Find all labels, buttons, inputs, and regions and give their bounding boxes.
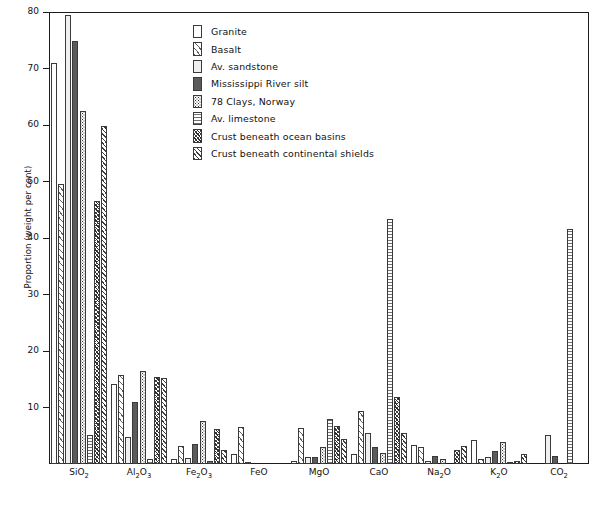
bar[interactable] <box>461 446 467 464</box>
bar[interactable] <box>351 454 357 464</box>
bar[interactable] <box>394 397 400 464</box>
legend-label: 78 Clays, Norway <box>211 96 295 107</box>
bar-group-al2o3 <box>109 12 169 464</box>
bar-group-k2o <box>469 12 529 464</box>
bar[interactable] <box>65 15 71 464</box>
bar[interactable] <box>545 435 551 464</box>
bar[interactable] <box>492 451 498 464</box>
legend-item-clays[interactable]: 78 Clays, Norway <box>193 93 453 110</box>
y-axis-tick-label: 80 <box>28 6 39 17</box>
legend-swatch-clays <box>193 95 202 109</box>
bar[interactable] <box>298 428 304 464</box>
legend-label: Crust beneath continental shields <box>211 148 374 159</box>
bar-chart: Proportion (weight per cent) 01020304050… <box>0 0 597 519</box>
bar[interactable] <box>51 63 57 464</box>
bar[interactable] <box>171 459 177 464</box>
bar[interactable] <box>411 445 417 464</box>
bar[interactable] <box>358 411 364 464</box>
legend-swatch-continental <box>193 147 202 161</box>
bar[interactable] <box>231 454 237 464</box>
bar[interactable] <box>320 447 326 465</box>
bar[interactable] <box>507 462 513 464</box>
legend-swatch-basalt <box>193 42 202 56</box>
x-axis-label-mgo: MgO <box>289 466 349 482</box>
y-axis-tick-label: 30 <box>28 289 39 300</box>
y-axis-label: Proportion (weight per cent) <box>23 107 33 347</box>
bar[interactable] <box>440 459 446 464</box>
bar[interactable] <box>221 450 227 464</box>
bar[interactable] <box>87 435 93 464</box>
bar[interactable] <box>111 384 117 464</box>
y-axis-tick-label: 20 <box>28 345 39 356</box>
legend-item-sandstone[interactable]: Av. sandstone <box>193 58 453 75</box>
legend-swatch-sandstone <box>193 60 202 74</box>
bar[interactable] <box>387 219 393 464</box>
bar[interactable] <box>341 439 347 464</box>
bar[interactable] <box>312 457 318 464</box>
bar[interactable] <box>372 447 378 464</box>
legend-item-silt[interactable]: Mississippi River silt <box>193 75 453 92</box>
bar[interactable] <box>478 459 484 464</box>
bar[interactable] <box>514 461 520 464</box>
legend-item-ocean[interactable]: Crust beneath ocean basins <box>193 127 453 144</box>
bar[interactable] <box>80 111 86 464</box>
bar[interactable] <box>125 437 131 464</box>
y-axis-tick-label: 40 <box>28 232 39 243</box>
bar[interactable] <box>245 462 251 464</box>
bar[interactable] <box>238 427 244 464</box>
bar-group-sio2 <box>49 12 109 464</box>
legend-label: Crust beneath ocean basins <box>211 131 346 142</box>
bar[interactable] <box>147 459 153 464</box>
bar[interactable] <box>58 184 64 464</box>
bar[interactable] <box>380 453 386 464</box>
x-axis-label-sio2: SiO2 <box>49 466 109 482</box>
bar[interactable] <box>552 456 558 464</box>
y-axis-tick-label: 60 <box>28 119 39 130</box>
bar[interactable] <box>334 426 340 464</box>
legend-swatch-ocean <box>193 129 202 143</box>
legend-item-limestone[interactable]: Av. limestone <box>193 110 453 127</box>
bar[interactable] <box>454 450 460 464</box>
bar[interactable] <box>118 375 124 464</box>
x-axis-label-k2o: K2O <box>469 466 529 482</box>
legend-item-basalt[interactable]: Basalt <box>193 40 453 57</box>
bar[interactable] <box>154 377 160 464</box>
bar[interactable] <box>327 419 333 464</box>
legend-swatch-granite <box>193 25 202 39</box>
y-axis-tick-label: 70 <box>28 63 39 74</box>
bar[interactable] <box>72 41 78 464</box>
bar[interactable] <box>567 229 573 464</box>
bar[interactable] <box>207 461 213 464</box>
bar[interactable] <box>178 446 184 464</box>
bar[interactable] <box>200 421 206 465</box>
bar[interactable] <box>132 402 138 464</box>
bar[interactable] <box>291 461 297 464</box>
bar[interactable] <box>101 126 107 464</box>
legend-item-granite[interactable]: Granite <box>193 23 453 40</box>
bar[interactable] <box>161 378 167 464</box>
legend-label: Av. sandstone <box>211 61 278 72</box>
bar[interactable] <box>214 429 220 464</box>
y-axis-tick-label: 10 <box>28 402 39 413</box>
legend-label: Basalt <box>211 44 241 55</box>
bar[interactable] <box>185 458 191 464</box>
bar[interactable] <box>425 461 431 464</box>
bar[interactable] <box>432 456 438 464</box>
bar[interactable] <box>471 440 477 464</box>
bar[interactable] <box>485 457 491 464</box>
bar[interactable] <box>305 457 311 464</box>
bar[interactable] <box>192 444 198 464</box>
bar[interactable] <box>521 454 527 464</box>
bar-group-co2 <box>529 12 589 464</box>
bar[interactable] <box>401 433 407 464</box>
x-axis-label-co2: CO2 <box>529 466 589 482</box>
legend-item-continental[interactable]: Crust beneath continental shields <box>193 145 453 162</box>
bar[interactable] <box>94 201 100 464</box>
bar[interactable] <box>418 447 424 465</box>
legend-swatch-limestone <box>193 112 202 126</box>
y-axis-tick-label: 50 <box>28 176 39 187</box>
legend-label: Granite <box>211 26 247 37</box>
bar[interactable] <box>500 442 506 464</box>
bar[interactable] <box>140 371 146 464</box>
bar[interactable] <box>365 433 371 464</box>
